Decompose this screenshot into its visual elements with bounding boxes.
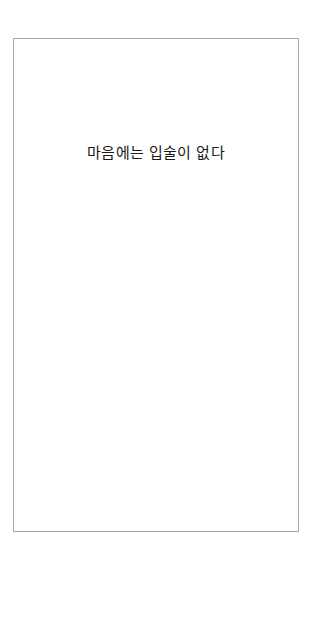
book-page: 마음에는 입술이 없다 bbox=[13, 38, 299, 532]
page-title: 마음에는 입술이 없다 bbox=[14, 141, 298, 162]
